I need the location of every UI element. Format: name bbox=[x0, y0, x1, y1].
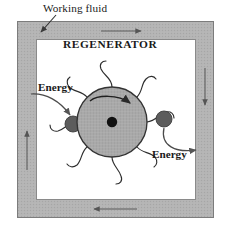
energy-in-label: Energy bbox=[38, 81, 73, 93]
regenerator-diagram: Working fluid REGENERATOR Energy Energy bbox=[0, 0, 226, 231]
energy-out-port bbox=[156, 111, 172, 127]
wheel-hub bbox=[107, 117, 117, 127]
energy-out-label: Energy bbox=[152, 148, 187, 160]
diagram-canvas bbox=[0, 0, 226, 231]
regenerator-label: REGENERATOR bbox=[63, 38, 157, 50]
working-fluid-label: Working fluid bbox=[43, 2, 107, 14]
regenerator-wheel bbox=[77, 87, 147, 157]
